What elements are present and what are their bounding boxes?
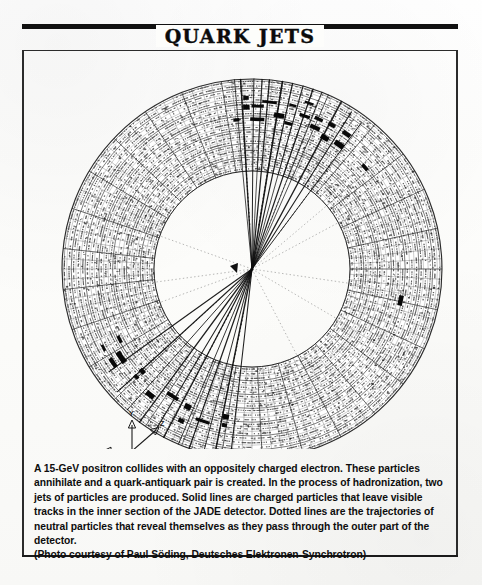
event-display-image: Y Z X	[24, 51, 456, 449]
figure-caption: A 15-GeV positron collides with an oppos…	[34, 462, 444, 563]
detector-event-svg: Y Z X	[24, 51, 456, 449]
axis-label-z: Z	[160, 420, 165, 427]
caption-body: A 15-GeV positron collides with an oppos…	[34, 462, 444, 548]
axis-label-x: X	[93, 448, 98, 449]
frame-border-right	[456, 50, 458, 556]
axis-label-y: Y	[129, 410, 134, 417]
figure-title-text: QUARK JETS	[156, 25, 325, 47]
caption-credit: (Photo courtesy of Paul Söding, Deutsche…	[34, 548, 444, 562]
detector-ring	[24, 51, 456, 449]
figure-title: QUARK JETS	[22, 23, 458, 49]
figure-frame: QUARK JETS	[22, 24, 458, 557]
